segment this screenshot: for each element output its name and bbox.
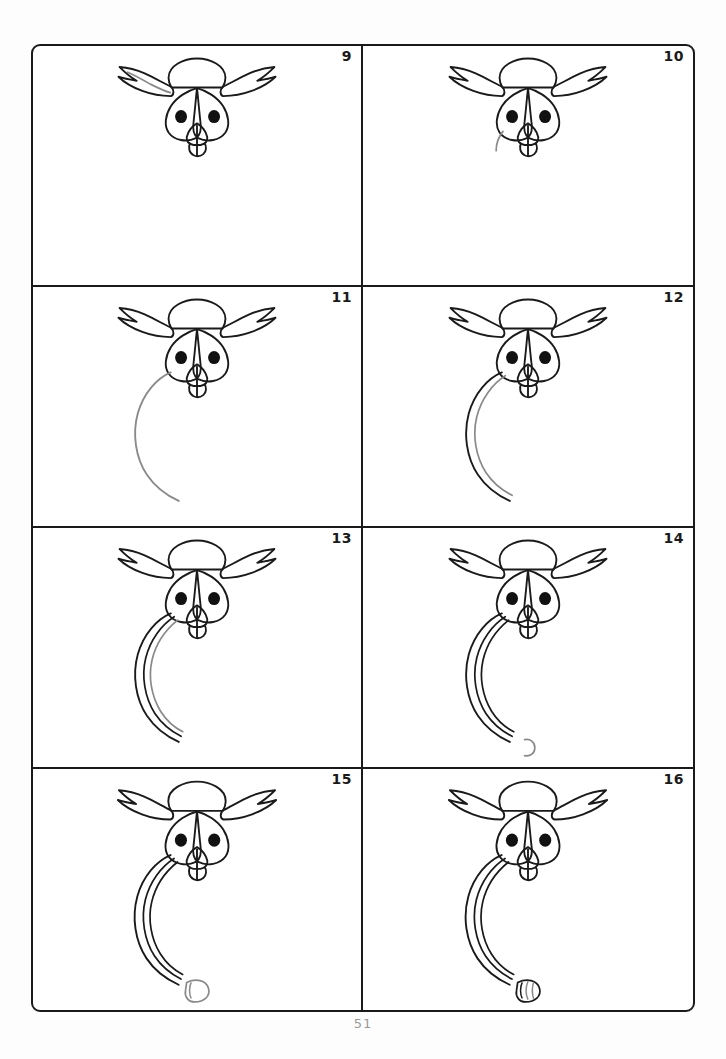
panel-number: 15 xyxy=(332,772,352,786)
owl-drawing-step-9 xyxy=(33,46,361,285)
owl-head-group xyxy=(449,300,606,398)
owl-head-group xyxy=(118,541,275,639)
owl-head-group xyxy=(118,300,275,398)
panel-number: 13 xyxy=(332,531,352,545)
left-pupil xyxy=(506,351,518,364)
foot-hook xyxy=(525,739,535,755)
owl-head-group xyxy=(449,782,607,881)
page-number: 51 xyxy=(0,1016,726,1031)
owl-foot-group xyxy=(516,980,540,1002)
panel-number: 9 xyxy=(342,49,352,63)
left-pupil xyxy=(175,351,187,364)
head-crown xyxy=(169,300,226,329)
panel-number: 16 xyxy=(664,772,684,786)
toe-1 xyxy=(521,982,523,998)
panel-number: 12 xyxy=(664,290,684,304)
left-pupil xyxy=(506,834,518,847)
panel-step-13: 13 xyxy=(33,528,363,769)
toe-3 xyxy=(532,982,533,999)
owl-drawing-step-14 xyxy=(363,528,693,767)
right-pupil xyxy=(539,592,551,605)
head-crown xyxy=(169,541,226,570)
owl-drawing-step-16 xyxy=(363,769,693,1010)
owl-drawing-step-11 xyxy=(33,287,361,526)
left-pupil xyxy=(175,592,187,605)
tutorial-sheet: 9 10 11 xyxy=(31,44,695,1012)
owl-foot-group xyxy=(185,980,209,1002)
panel-number: 11 xyxy=(332,290,352,304)
owl-head-group xyxy=(118,59,275,157)
panel-grid: 9 10 11 xyxy=(31,44,695,1012)
head-crown xyxy=(500,541,557,570)
owl-drawing-step-10 xyxy=(363,46,693,285)
panel-number: 10 xyxy=(664,49,684,63)
toe-1 xyxy=(190,982,192,998)
right-pupil xyxy=(539,110,551,123)
right-pupil xyxy=(208,592,220,605)
right-pupil xyxy=(208,110,220,123)
head-crown xyxy=(169,59,226,88)
owl-head-group xyxy=(449,59,606,157)
right-pupil xyxy=(208,351,220,364)
owl-drawing-step-15 xyxy=(33,769,361,1010)
panel-step-11: 11 xyxy=(33,287,363,528)
toe-2 xyxy=(526,981,528,999)
head-crown xyxy=(168,782,225,811)
left-pupil xyxy=(506,110,518,123)
owl-drawing-step-13 xyxy=(33,528,361,767)
panel-number: 14 xyxy=(664,531,684,545)
panel-step-14: 14 xyxy=(363,528,693,769)
left-pupil xyxy=(175,110,187,123)
body-back-curve xyxy=(135,372,179,501)
panel-step-12: 12 xyxy=(363,287,693,528)
owl-drawing-step-12 xyxy=(363,287,693,526)
left-pupil xyxy=(175,834,187,847)
left-pupil xyxy=(506,592,518,605)
right-pupil xyxy=(539,351,551,364)
panel-step-15: 15 xyxy=(33,769,363,1010)
owl-head-group xyxy=(118,782,276,881)
panel-step-16: 16 xyxy=(363,769,693,1010)
owl-head-group xyxy=(449,541,606,639)
right-pupil xyxy=(539,834,551,847)
panel-step-9: 9 xyxy=(33,46,363,287)
right-pupil xyxy=(208,834,220,847)
head-crown xyxy=(499,782,556,811)
head-crown xyxy=(500,59,557,88)
panel-step-10: 10 xyxy=(363,46,693,287)
head-crown xyxy=(500,300,557,329)
